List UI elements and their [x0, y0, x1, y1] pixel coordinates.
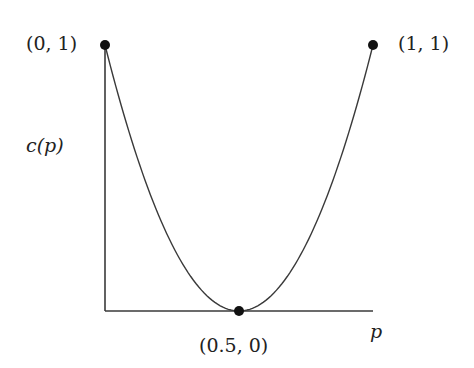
y-axis-label: c(p) [26, 134, 64, 156]
label-y-axis: c(p) [26, 136, 64, 155]
label-point-top-right: (1, 1) [398, 34, 449, 53]
cost-curve-diagram [0, 0, 474, 368]
point-top-left [100, 40, 110, 50]
parabola-curve [105, 45, 373, 311]
label-x-axis: p [370, 322, 382, 341]
label-point-bottom: (0.5, 0) [199, 336, 268, 355]
point-bottom [234, 306, 244, 316]
point-top-right [368, 40, 378, 50]
label-point-top-left: (0, 1) [26, 34, 77, 53]
